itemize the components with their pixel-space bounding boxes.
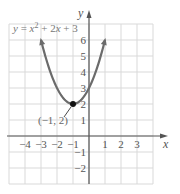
x-tick-label: 1 (102, 138, 108, 150)
y-tick-label: 1 (81, 114, 87, 126)
y-tick-label: −1 (74, 146, 86, 158)
y-tick-label: 5 (81, 50, 87, 62)
x-tick-label: −3 (35, 138, 47, 150)
x-tick-label: 2 (118, 138, 124, 150)
x-axis-label: x (162, 137, 169, 151)
axes (7, 10, 168, 184)
vertex-point (70, 101, 76, 107)
curve-arrow-icon (39, 38, 45, 46)
curve-arrow-icon (101, 38, 107, 46)
x-tick-label: −4 (19, 138, 31, 150)
y-tick-label: 6 (81, 34, 87, 46)
x-tick-label: −2 (51, 138, 63, 150)
y-axis-label: y (77, 6, 84, 20)
x-tick-label: 3 (134, 138, 140, 150)
y-tick-label: −2 (74, 162, 86, 174)
equation-label: y = x2 + 2x + 3 (12, 21, 78, 34)
y-axis-arrow-icon (87, 10, 92, 18)
y-tick-label: 4 (81, 66, 87, 78)
vertex-label: (−1, 2) (38, 114, 68, 127)
parabola-chart: −4−3−2−1123−2−1123456 (−1, 2) y = x2 + 2… (0, 0, 180, 194)
